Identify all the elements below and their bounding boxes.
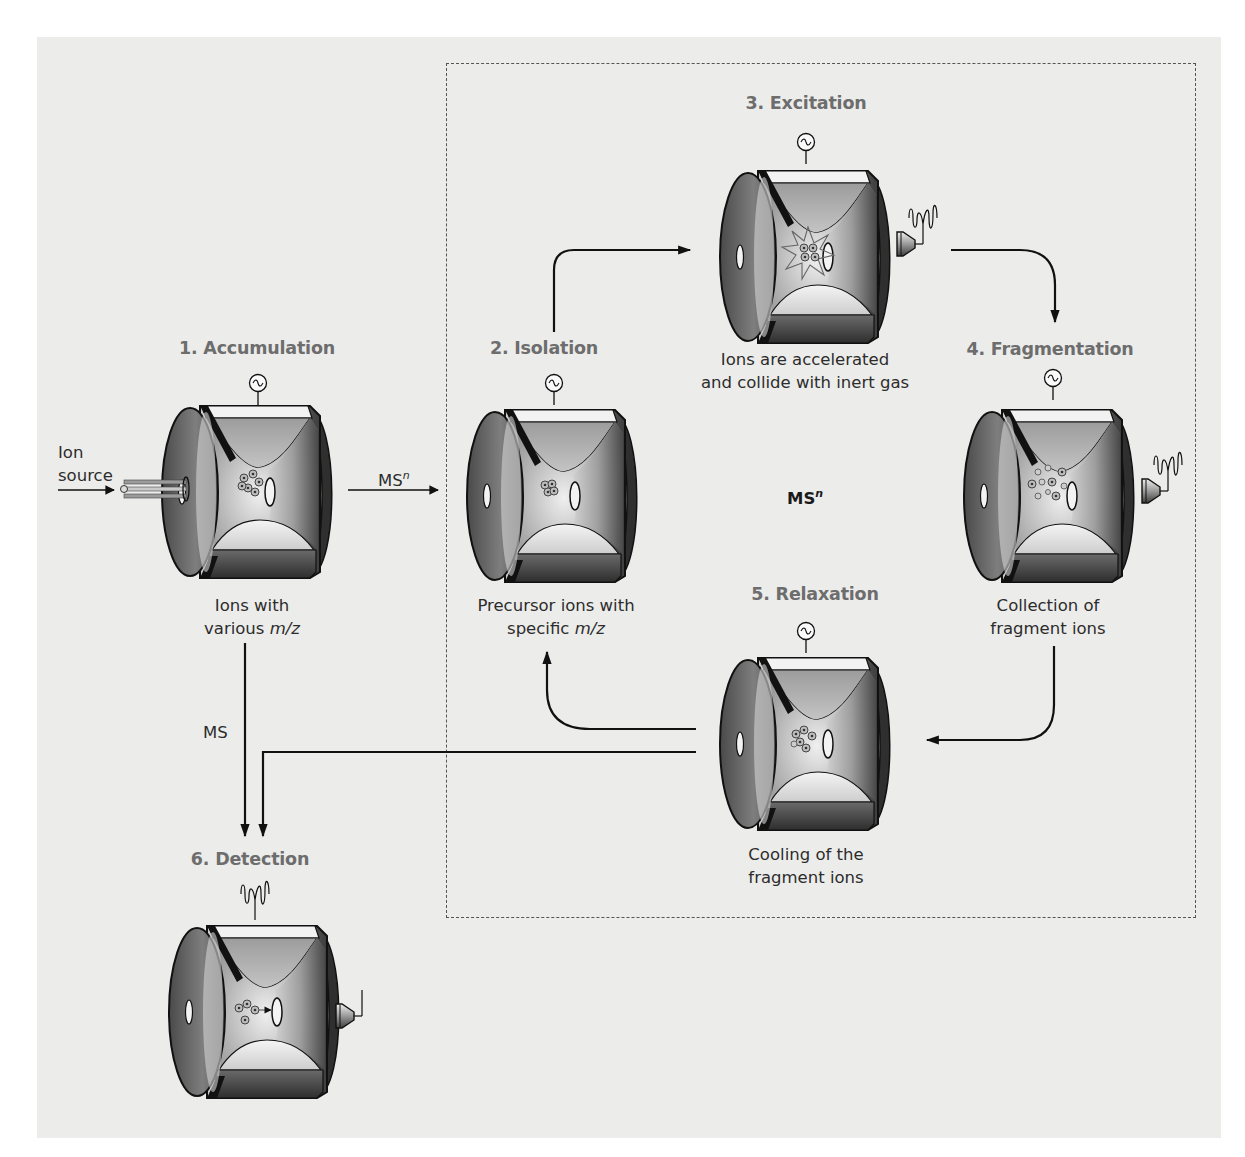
- detector-icon: [897, 232, 923, 256]
- detector-icon: [336, 1004, 362, 1028]
- excitation-to-fragmentation-arrow: [951, 250, 1055, 322]
- label-line: Ion: [58, 441, 113, 464]
- step-title-excitation: 3. Excitation: [746, 93, 867, 113]
- caption-accumulation: Ions with various m/z: [204, 594, 300, 640]
- fragmentation-to-relaxation-arrow: [927, 646, 1054, 740]
- ion-source-needle-icon: [121, 477, 190, 501]
- ion-trap-fragmentation: [964, 410, 1134, 582]
- caption-text: various: [204, 619, 270, 638]
- label-sup: n: [815, 487, 823, 500]
- msn-arrow-label: MSn: [378, 464, 410, 492]
- ion-trap-relaxation: [720, 658, 890, 830]
- step-title-relaxation: 5. Relaxation: [751, 584, 878, 604]
- caption-line: and collide with inert gas: [701, 371, 909, 394]
- label-line: source: [58, 464, 113, 487]
- step-title-fragmentation: 4. Fragmentation: [966, 339, 1133, 359]
- step-title-detection: 6. Detection: [191, 849, 309, 869]
- step-title-isolation: 2. Isolation: [490, 338, 598, 358]
- caption-line: Ions are accelerated: [701, 348, 909, 371]
- label-sup: n: [403, 469, 410, 482]
- mz-italic: m/z: [270, 619, 300, 638]
- rf-source-icon: [798, 623, 815, 654]
- mz-italic: m/z: [575, 619, 605, 638]
- label-base: MS: [378, 471, 403, 490]
- caption-line: various m/z: [204, 617, 300, 640]
- caption-line: Precursor ions with: [477, 594, 634, 617]
- caption-text: specific: [507, 619, 575, 638]
- signal-icon: [241, 881, 269, 920]
- ion-trap-excitation: [720, 171, 890, 343]
- ion-source-label: Ion source: [58, 441, 113, 487]
- relaxation-to-detection-arrow: [263, 752, 696, 836]
- ion-trap-detection: [169, 926, 339, 1098]
- caption-fragmentation: Collection of fragment ions: [990, 594, 1105, 640]
- relaxation-to-isolation-arrow: [547, 652, 696, 729]
- caption-isolation: Precursor ions with specific m/z: [477, 594, 634, 640]
- caption-excitation: Ions are accelerated and collide with in…: [701, 348, 909, 394]
- ms-arrow-label: MS: [203, 721, 228, 744]
- caption-line: fragment ions: [990, 617, 1105, 640]
- rf-source-icon: [1045, 370, 1062, 401]
- isolation-to-excitation-arrow: [554, 250, 690, 332]
- caption-line: Collection of: [990, 594, 1105, 617]
- caption-relaxation: Cooling of the fragment ions: [748, 843, 863, 889]
- msn-cycle-label: MSn: [787, 482, 823, 510]
- caption-line: fragment ions: [748, 866, 863, 889]
- rf-source-icon: [798, 134, 815, 165]
- label-base: MS: [787, 489, 815, 508]
- ion-trap-accumulation: [162, 406, 332, 578]
- caption-line: specific m/z: [477, 617, 634, 640]
- caption-line: Cooling of the: [748, 843, 863, 866]
- ion-trap-isolation: [467, 410, 637, 582]
- rf-source-icon: [250, 375, 267, 406]
- diagram-canvas: [0, 0, 1245, 1157]
- caption-line: Ions with: [204, 594, 300, 617]
- step-title-accumulation: 1. Accumulation: [179, 338, 335, 358]
- rf-source-icon: [546, 375, 563, 406]
- detector-icon: [1142, 479, 1168, 503]
